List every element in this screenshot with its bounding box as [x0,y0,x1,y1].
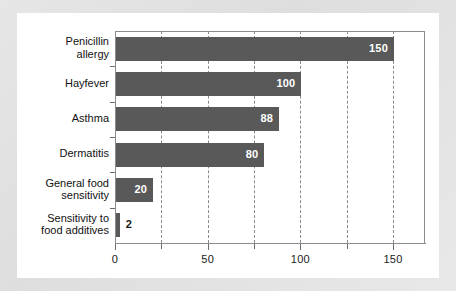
horizontal-bar-chart: 050100150 1501008880202 Penicillinallerg… [17,13,439,278]
category-label-line: Penicillin [0,35,109,48]
bar-value-label: 150 [116,42,388,54]
x-tick-minor-75 [254,244,255,249]
chart-screenshot: 050100150 1501008880202 Penicillinallerg… [0,0,456,291]
category-label-line: Hayfever [0,77,109,90]
bar-value-label: 2 [126,218,156,230]
bar [116,213,120,237]
category-tick [110,172,115,173]
category-tick [110,102,115,103]
bar-value-label: 88 [116,112,273,124]
y-axis-line [115,31,116,244]
x-tick-major-150 [393,244,394,250]
category-label-line: sensitivity [0,189,109,202]
gridline-125 [347,31,348,243]
category-tick [110,66,115,67]
bar-value-label: 20 [116,183,147,195]
gridline-75 [254,31,255,243]
gridline-100 [300,31,301,243]
gridline-150 [393,31,394,243]
bar-value-label: 100 [116,77,295,89]
x-tick-major-50 [208,244,209,250]
category-label: Asthma [0,112,109,125]
category-label-line: allergy [0,48,109,61]
x-tick-label-150: 150 [373,253,413,265]
gridline-50 [208,31,209,243]
x-tick-major-0 [115,244,116,250]
x-tick-minor-125 [347,244,348,249]
bar-value-label: 80 [116,148,258,160]
x-tick-label-100: 100 [280,253,320,265]
category-label-line: Asthma [0,112,109,125]
chart-card: 050100150 1501008880202 Penicillinallerg… [17,13,439,278]
x-tick-label-0: 0 [95,253,135,265]
category-label: Hayfever [0,77,109,90]
category-tick [110,208,115,209]
category-tick [110,137,115,138]
x-tick-major-100 [300,244,301,250]
gridline-25 [161,31,162,243]
category-label: Dermatitis [0,147,109,160]
category-label: Sensitivity tofood additives [0,212,109,237]
category-label-line: Sensitivity to [0,212,109,225]
x-tick-label-50: 50 [188,253,228,265]
category-label-line: Dermatitis [0,147,109,160]
category-label-line: General food [0,177,109,190]
category-label: General foodsensitivity [0,177,109,202]
x-tick-minor-25 [161,244,162,249]
category-label: Penicillinallergy [0,35,109,60]
category-label-line: food additives [0,224,109,237]
